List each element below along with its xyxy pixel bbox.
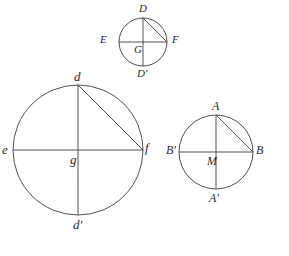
point-label-M: M <box>207 155 217 167</box>
point-label-f: f <box>145 141 149 154</box>
point-label-d-prime: d' <box>73 218 82 231</box>
point-label-B: B <box>256 144 263 156</box>
point-label-F: F <box>172 34 179 45</box>
point-label-d: d <box>74 70 81 83</box>
point-label-g: g <box>70 153 77 166</box>
chord-bottom-right <box>216 115 253 152</box>
point-label-G: G <box>134 44 142 55</box>
point-label-D: D <box>139 3 147 14</box>
chord-bottom-left <box>78 85 143 150</box>
circle-group-top-circle <box>119 18 167 66</box>
point-label-A-prime: A' <box>209 192 219 204</box>
point-label-E: E <box>100 34 107 45</box>
point-label-e: e <box>2 143 8 156</box>
point-label-D-prime: D' <box>137 68 147 79</box>
geometry-figure: D E F D' G d e f d' g A B' B A' M <box>0 0 289 256</box>
circle-group-bottom-left-circle <box>13 85 143 215</box>
circle-group-bottom-right-circle <box>179 115 253 189</box>
geometry-canvas <box>0 0 289 256</box>
point-label-B-prime: B' <box>166 144 176 156</box>
point-label-A: A <box>212 100 219 112</box>
